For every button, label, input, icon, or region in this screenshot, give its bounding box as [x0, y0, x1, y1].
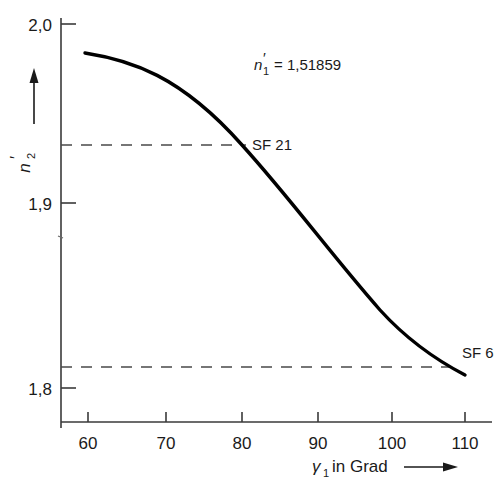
x-axis-label-sub: 1 — [323, 467, 329, 478]
note-base: n — [254, 56, 262, 73]
x-axis-label-rest: in Grad — [332, 457, 388, 476]
y-axis-label-prime: ′ — [7, 156, 26, 159]
sf21-label: SF 21 — [252, 136, 292, 153]
y-axis-label-base: n — [15, 163, 34, 172]
y-axis-label-sub: 2 — [25, 153, 37, 159]
note-prime: ′ — [263, 49, 266, 66]
note-sub: 1 — [263, 65, 269, 77]
y-tick-label-1-8: 1,8 — [28, 380, 52, 399]
x-tick-label-70: 70 — [157, 434, 176, 453]
x-tick-label-110: 110 — [451, 434, 478, 453]
x-tick-label-60: 60 — [79, 434, 98, 453]
note-value: = 1,51859 — [274, 56, 341, 73]
chart-background — [0, 0, 499, 478]
y-tick-label-1-9: 1,9 — [28, 195, 52, 214]
chart-figure: 2,0 1,9 1,8 60 70 80 90 100 110 n 2 ′ γ … — [0, 0, 499, 478]
chart-svg: 2,0 1,9 1,8 60 70 80 90 100 110 n 2 ′ γ … — [0, 0, 499, 478]
x-tick-label-100: 100 — [378, 434, 406, 453]
x-tick-label-80: 80 — [233, 434, 252, 453]
x-tick-label-90: 90 — [309, 434, 328, 453]
sf6-label: SF 6 — [462, 344, 494, 361]
y-tick-label-2-0: 2,0 — [28, 16, 52, 35]
